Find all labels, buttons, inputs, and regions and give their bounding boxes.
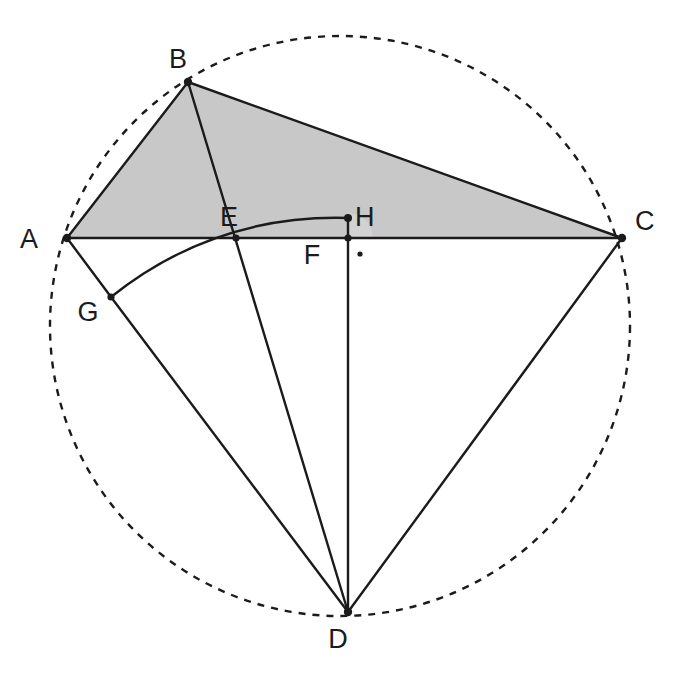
point-label-d: D xyxy=(328,624,348,654)
vertex-dot-b xyxy=(184,78,192,86)
angle-marker-dot xyxy=(357,251,362,256)
vertex-dot-g xyxy=(107,293,114,300)
point-label-b: B xyxy=(169,44,187,74)
vertex-dot-a xyxy=(63,234,71,242)
point-label-g: G xyxy=(77,297,98,327)
vertex-dot-d xyxy=(344,608,352,616)
segment-cd xyxy=(348,238,622,612)
point-label-c: C xyxy=(635,206,655,236)
segment-gd xyxy=(111,297,348,612)
segment-ag xyxy=(67,238,111,297)
point-label-e: E xyxy=(220,202,238,232)
vertex-dot-f xyxy=(344,234,351,241)
triangle-abc-shaded-region xyxy=(67,82,622,238)
point-label-f: F xyxy=(304,240,321,270)
point-label-a: A xyxy=(20,224,38,254)
point-label-h: H xyxy=(355,202,375,232)
vertex-dot-e xyxy=(232,234,239,241)
geometry-canvas: A B C D E F G H xyxy=(0,0,676,684)
geometry-diagram-root: A B C D E F G H xyxy=(0,0,676,684)
circumcircle xyxy=(50,36,630,616)
vertex-dot-h xyxy=(344,214,352,222)
vertex-dot-c xyxy=(618,234,626,242)
